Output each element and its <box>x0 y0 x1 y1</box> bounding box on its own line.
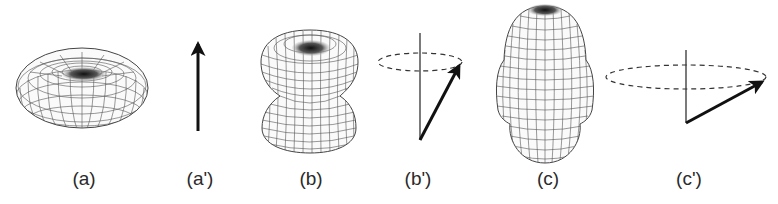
label-c-prime: (c') <box>676 168 702 190</box>
tilted-arrow <box>420 66 459 140</box>
lobe-hole <box>292 40 330 56</box>
panel-a-surface <box>16 48 148 132</box>
tilted-arrow <box>686 82 762 123</box>
panel-c-surface <box>496 4 594 163</box>
top-cap <box>528 4 562 16</box>
label-c: (c) <box>537 168 559 190</box>
panel-c-prime-precession <box>606 50 766 123</box>
torus-hole <box>62 67 106 81</box>
label-b-prime: (b') <box>405 168 432 190</box>
panel-b-prime-precession <box>378 33 462 140</box>
figure-canvas <box>0 0 778 204</box>
label-a: (a) <box>72 168 95 190</box>
panel-b-surface <box>261 30 358 153</box>
label-b: (b) <box>299 168 322 190</box>
label-a-prime: (a') <box>187 168 214 190</box>
